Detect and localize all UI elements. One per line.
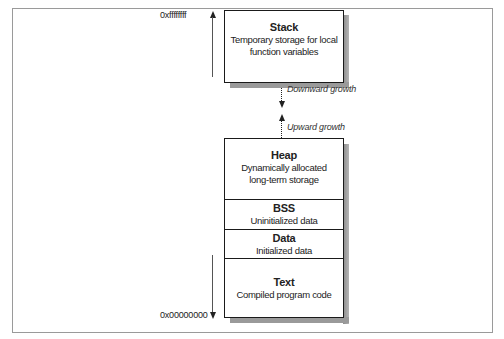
address-bottom-label: 0x00000000: [160, 310, 208, 320]
bss-title: BSS: [225, 202, 343, 215]
stack-segment: Stack Temporary storage for local functi…: [224, 10, 344, 83]
text-description: Compiled program code: [225, 289, 343, 301]
stack-description-line1: Temporary storage for local: [225, 34, 343, 46]
text-title: Text: [225, 276, 343, 289]
stack-title: Stack: [225, 21, 343, 34]
data-title: Data: [225, 232, 343, 245]
downward-growth-arrowhead-icon: [279, 101, 285, 108]
heap-segment: Heap Dynamically allocated long-term sto…: [225, 139, 343, 200]
data-segment: Data Initialized data: [225, 230, 343, 259]
address-up-arrow-line: [212, 17, 213, 77]
heap-description-line2: long-term storage: [225, 174, 343, 186]
stack-description-line2: function variables: [225, 46, 343, 58]
data-description: Initialized data: [225, 245, 343, 257]
address-up-arrowhead-icon: [210, 11, 216, 18]
bss-description: Uninitialized data: [225, 215, 343, 227]
bss-segment: BSS Uninitialized data: [225, 200, 343, 230]
heap-title: Heap: [225, 149, 343, 162]
address-down-arrowhead-icon: [210, 312, 216, 319]
heap-description-line1: Dynamically allocated: [225, 162, 343, 174]
address-down-arrow-line: [212, 255, 213, 314]
upward-growth-arrowhead-icon: [279, 114, 285, 121]
downward-growth-label: Downward growth: [287, 84, 356, 94]
address-top-label: 0xffffffff: [160, 10, 186, 20]
upward-growth-label: Upward growth: [287, 122, 345, 132]
upward-growth-line: [281, 121, 282, 138]
memory-block: Heap Dynamically allocated long-term sto…: [224, 138, 344, 318]
text-segment: Text Compiled program code: [225, 259, 343, 317]
